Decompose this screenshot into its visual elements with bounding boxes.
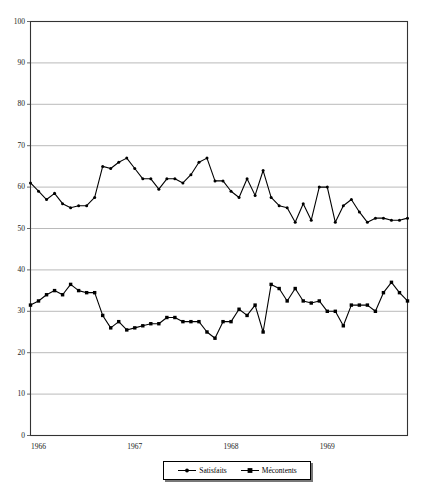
x-axis-tick-label: 1969 — [320, 443, 335, 451]
series-mcontents — [29, 281, 409, 340]
y-axis-tick-label: 100 — [2, 18, 25, 26]
y-axis-tick-label: 40 — [2, 266, 25, 274]
y-axis-tick-label: 60 — [2, 183, 25, 191]
y-axis-tick-label: 0 — [2, 432, 25, 440]
gridlines — [31, 63, 408, 394]
chart-legend: Satisfaits Mécontents — [163, 461, 311, 480]
y-axis-tick-label: 20 — [2, 349, 25, 357]
legend-marker-circle-icon — [177, 466, 197, 475]
x-axis-tick-label: 1967 — [127, 443, 142, 451]
y-axis-tick-label: 80 — [2, 100, 25, 108]
y-axis-tick-label: 30 — [2, 307, 25, 315]
legend-label-mecontents: Mécontents — [262, 467, 297, 475]
x-axis-tick-label: 1966 — [31, 443, 46, 451]
legend-marker-square-icon — [240, 466, 260, 475]
y-axis-tick-label: 10 — [2, 390, 25, 398]
legend-label-satisfaits: Satisfaits — [199, 467, 227, 475]
series-satisfaits — [29, 157, 409, 224]
y-axis-tick-label: 70 — [2, 142, 25, 150]
legend-entry-satisfaits: Satisfaits — [177, 466, 227, 475]
y-axis-tick-label: 50 — [2, 225, 25, 233]
y-axis-tick-label: 90 — [2, 59, 25, 67]
chart-plot-area — [0, 0, 431, 497]
legend-entry-mecontents: Mécontents — [240, 466, 297, 475]
line-chart: 01020304050607080901001966196719681969 — [0, 0, 431, 497]
x-axis-tick-label: 1968 — [224, 443, 239, 451]
